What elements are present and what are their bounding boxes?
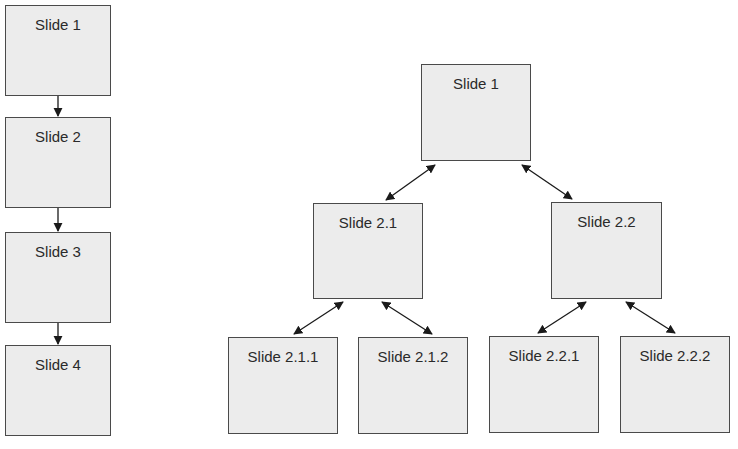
slide-label: Slide 2.2.2 (640, 347, 711, 364)
linear-slide-4: Slide 4 (5, 345, 111, 436)
linear-slide-3: Slide 3 (5, 232, 111, 323)
slide-label: Slide 2.2 (577, 213, 635, 230)
slide-label: Slide 1 (35, 16, 81, 33)
slide-label: Slide 2.1.1 (248, 348, 319, 365)
tree-slide-2-2-2: Slide 2.2.2 (620, 336, 730, 433)
slide-label: Slide 2.2.1 (509, 347, 580, 364)
slide-label: Slide 2.1 (339, 214, 397, 231)
double-arrow-icon (294, 302, 343, 334)
double-arrow-icon (538, 302, 586, 333)
tree-slide-2-2-1: Slide 2.2.1 (489, 336, 599, 433)
tree-slide-2-1-2: Slide 2.1.2 (358, 337, 468, 434)
double-arrow-icon (382, 302, 432, 334)
slide-label: Slide 3 (35, 243, 81, 260)
tree-slide-1: Slide 1 (421, 64, 531, 161)
slide-label: Slide 2.1.2 (378, 348, 449, 365)
tree-slide-2-1-1: Slide 2.1.1 (228, 337, 338, 434)
linear-slide-1: Slide 1 (5, 5, 111, 96)
slide-label: Slide 2 (35, 128, 81, 145)
double-arrow-icon (386, 165, 435, 200)
double-arrow-icon (626, 302, 675, 333)
tree-slide-2-1: Slide 2.1 (313, 203, 423, 299)
linear-slide-2: Slide 2 (5, 117, 111, 208)
slide-label: Slide 1 (453, 75, 499, 92)
slide-label: Slide 4 (35, 356, 81, 373)
tree-slide-2-2: Slide 2.2 (551, 202, 662, 299)
double-arrow-icon (522, 165, 572, 199)
